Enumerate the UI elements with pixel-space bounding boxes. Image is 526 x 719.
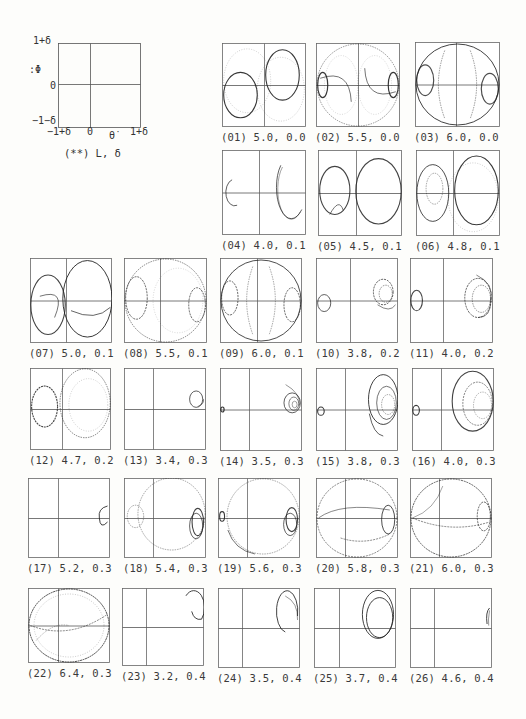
phase-portrait-panel-04: (04) 4.0, 0.1 bbox=[222, 150, 306, 253]
phase-portrait-panel-14: (14) 3.5, 0.3 bbox=[220, 368, 302, 469]
phase-plot bbox=[412, 368, 494, 451]
panel-caption: (12) 4.7, 0.2 bbox=[29, 454, 114, 466]
phase-plot bbox=[316, 258, 398, 343]
panel-caption: (08) 5.5, 0.1 bbox=[123, 347, 208, 359]
phase-portrait-panel-23: (23) 3.2, 0.4 bbox=[122, 588, 204, 684]
legend-x-mid: 0 bbox=[87, 126, 93, 137]
legend-panel: 1+δ :Φ 0 −1−δ −1+δ 0 θ̇ 1+δ bbox=[0, 30, 210, 150]
panel-caption: (10) 3.8, 0.2 bbox=[315, 347, 400, 359]
phase-portrait-panel-15: (15) 3.8, 0.3 bbox=[316, 368, 398, 469]
panel-caption: (18) 5.4, 0.3 bbox=[123, 562, 208, 574]
phase-portrait-panel-25: (25) 3.7, 0.4 bbox=[314, 588, 396, 686]
panel-caption: (24) 3.5, 0.4 bbox=[217, 672, 302, 684]
panel-caption: (09) 6.0, 0.1 bbox=[219, 347, 304, 359]
phase-portrait-panel-21: (21) 6.0, 0.3 bbox=[410, 478, 492, 576]
panel-caption: (01) 5.0, 0.0 bbox=[221, 131, 306, 143]
phase-portrait-panel-03: (03) 6.0, 0.0 bbox=[415, 42, 500, 145]
phase-plot bbox=[28, 588, 110, 663]
legend-x-right: 1+δ bbox=[130, 126, 148, 137]
phase-portrait-panel-22: (22) 6.4, 0.3 bbox=[28, 588, 110, 681]
phase-plot bbox=[218, 588, 300, 668]
phase-portrait-panel-12: (12) 4.7, 0.2 bbox=[30, 368, 111, 468]
phase-portrait-panel-24: (24) 3.5, 0.4 bbox=[218, 588, 300, 686]
phase-plot bbox=[220, 368, 302, 451]
phase-portrait-panel-26: (26) 4.6, 0.4 bbox=[410, 588, 492, 686]
phase-plot bbox=[316, 478, 398, 558]
panel-caption: (21) 6.0, 0.3 bbox=[409, 562, 494, 574]
panel-caption: (05) 4.5, 0.1 bbox=[317, 240, 402, 252]
phase-portrait-panel-07: (07) 5.0, 0.1 bbox=[30, 258, 112, 361]
phase-plot bbox=[30, 368, 111, 450]
phase-portrait-panel-20: (20) 5.8, 0.3 bbox=[316, 478, 398, 576]
phase-portrait-panel-09: (09) 6.0, 0.1 bbox=[220, 258, 302, 361]
panel-caption: (20) 5.8, 0.3 bbox=[315, 562, 400, 574]
panel-caption: (15) 3.8, 0.3 bbox=[315, 455, 400, 467]
legend-caption: (**) L, δ bbox=[64, 147, 121, 159]
phase-portrait-panel-01: (01) 5.0, 0.0 bbox=[222, 43, 306, 145]
legend-axes bbox=[0, 30, 210, 150]
panel-caption: (03) 6.0, 0.0 bbox=[414, 131, 499, 143]
phase-plot bbox=[124, 478, 206, 558]
phase-plot bbox=[220, 258, 302, 343]
panel-caption: (19) 5.6, 0.3 bbox=[217, 562, 302, 574]
phase-plot bbox=[124, 258, 207, 343]
phase-plot bbox=[410, 478, 492, 558]
phase-plot bbox=[416, 150, 500, 236]
panel-caption: (04) 4.0, 0.1 bbox=[221, 239, 306, 251]
phase-portrait-panel-19: (19) 5.6, 0.3 bbox=[218, 478, 300, 576]
phase-plot bbox=[28, 478, 110, 558]
legend-x-label: θ̇ bbox=[109, 130, 115, 141]
phase-plot bbox=[316, 368, 398, 451]
panel-caption: (11) 4.0, 0.2 bbox=[409, 347, 494, 359]
phase-portrait-panel-02: (02) 5.5, 0.0 bbox=[316, 43, 400, 145]
panel-caption: (06) 4.8, 0.1 bbox=[415, 240, 500, 252]
phase-plot bbox=[415, 42, 500, 127]
panel-caption: (26) 4.6, 0.4 bbox=[409, 672, 494, 684]
phase-portrait-panel-08: (08) 5.5, 0.1 bbox=[124, 258, 207, 361]
panel-caption: (22) 6.4, 0.3 bbox=[27, 667, 112, 679]
panel-caption: (25) 3.7, 0.4 bbox=[313, 672, 398, 684]
phase-portrait-panel-13: (13) 3.4, 0.3 bbox=[124, 368, 206, 468]
panel-caption: (16) 4.0, 0.3 bbox=[411, 455, 496, 467]
phase-portrait-panel-05: (05) 4.5, 0.1 bbox=[318, 150, 402, 254]
phase-portrait-panel-16: (16) 4.0, 0.3 bbox=[412, 368, 494, 469]
phase-plot bbox=[222, 43, 306, 127]
panel-caption: (07) 5.0, 0.1 bbox=[29, 347, 114, 359]
phase-plot bbox=[318, 150, 402, 236]
phase-plot bbox=[314, 588, 396, 668]
phase-plot bbox=[410, 588, 492, 668]
phase-portrait-panel-10: (10) 3.8, 0.2 bbox=[316, 258, 398, 361]
phase-plot bbox=[30, 258, 112, 343]
panel-caption: (02) 5.5, 0.0 bbox=[315, 131, 400, 143]
phase-plot bbox=[222, 150, 306, 235]
phase-plot bbox=[316, 43, 400, 127]
phase-plot bbox=[410, 258, 493, 343]
phase-plot bbox=[124, 368, 206, 450]
phase-portrait-panel-18: (18) 5.4, 0.3 bbox=[124, 478, 206, 576]
phase-plot bbox=[122, 588, 204, 666]
phase-portrait-panel-17: (17) 5.2, 0.3 bbox=[28, 478, 110, 576]
phase-plot bbox=[218, 478, 300, 558]
panel-caption: (23) 3.2, 0.4 bbox=[121, 670, 206, 682]
legend-x-left: −1+δ bbox=[47, 126, 71, 137]
panel-caption: (14) 3.5, 0.3 bbox=[219, 455, 304, 467]
panel-caption: (17) 5.2, 0.3 bbox=[27, 562, 112, 574]
panel-caption: (13) 3.4, 0.3 bbox=[123, 454, 208, 466]
phase-portrait-panel-11: (11) 4.0, 0.2 bbox=[410, 258, 493, 361]
phase-portrait-panel-06: (06) 4.8, 0.1 bbox=[416, 150, 500, 254]
